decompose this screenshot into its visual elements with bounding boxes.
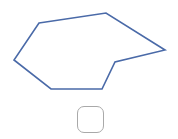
select-checkbox[interactable] xyxy=(77,106,104,133)
heptagon-shape xyxy=(14,13,165,89)
